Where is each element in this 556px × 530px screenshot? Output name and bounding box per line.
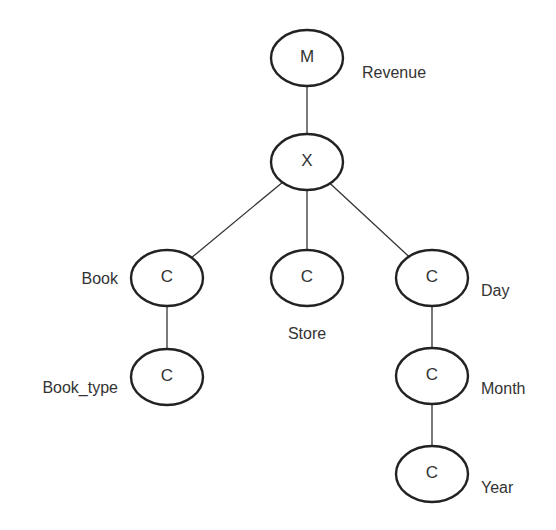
node-symbol: C [161, 366, 173, 385]
node-m: M [271, 30, 343, 86]
node-label-month: Month [481, 380, 525, 397]
node-label-book: Book [82, 270, 119, 287]
node-year: C [396, 446, 468, 502]
node-store: C [271, 250, 343, 306]
node-book_type: C [131, 349, 203, 405]
node-label-store: Store [288, 325, 326, 342]
node-symbol: C [161, 267, 173, 286]
node-symbol: M [300, 47, 314, 66]
node-day: C [396, 250, 468, 306]
node-book: C [131, 250, 203, 306]
node-x: X [271, 134, 343, 190]
nodes-group: MXCCCCCC [131, 30, 468, 502]
node-symbol: C [301, 267, 313, 286]
node-label-book_type: Book_type [42, 379, 118, 397]
node-symbol: X [301, 151, 312, 170]
node-label-m: Revenue [362, 64, 426, 81]
node-label-year: Year [481, 479, 514, 496]
node-month: C [396, 348, 468, 404]
edge-x-book [192, 182, 283, 257]
node-symbol: C [426, 463, 438, 482]
schema-tree-diagram: MXCCCCCC RevenueBookStoreDayBook_typeMon… [0, 0, 556, 530]
node-symbol: C [426, 365, 438, 384]
node-label-day: Day [481, 282, 509, 299]
edge-x-day [330, 183, 409, 256]
node-symbol: C [426, 267, 438, 286]
